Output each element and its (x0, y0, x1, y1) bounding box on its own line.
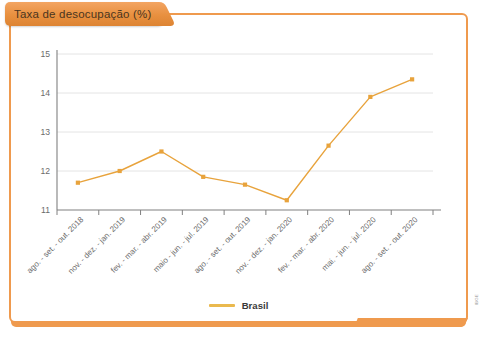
data-point (326, 144, 330, 148)
x-axis-tick-labels: ago. - set. - out. 2018nov. - dez. - jan… (25, 215, 420, 276)
legend-swatch-brasil (209, 304, 235, 307)
data-point (118, 169, 122, 173)
y-tick-label: 13 (40, 127, 50, 137)
y-tick-label: 12 (40, 166, 50, 176)
data-point (201, 175, 205, 179)
plot-area: 1112131415 ago. - set. - out. 2018nov. -… (9, 13, 468, 323)
chart-legend: Brasil (9, 300, 468, 311)
y-axis-tick-labels: 1112131415 (40, 49, 50, 215)
page-title: Taxa de desocupação (%) (14, 2, 164, 26)
gridlines-group (57, 54, 433, 171)
data-series-group (76, 77, 414, 202)
data-point (285, 198, 289, 202)
legend-label-brasil: Brasil (242, 300, 269, 311)
line-chart: 1112131415 ago. - set. - out. 2018nov. -… (9, 13, 468, 323)
y-tick-label: 15 (40, 49, 50, 59)
data-point (76, 181, 80, 185)
data-point (243, 183, 247, 187)
data-point (368, 95, 372, 99)
y-tick-label: 14 (40, 88, 50, 98)
data-point (410, 77, 414, 81)
series-line-brasil (78, 79, 412, 200)
y-tick-label: 11 (41, 205, 50, 215)
data-point (159, 149, 163, 153)
source-credit: IBGE (474, 294, 479, 305)
